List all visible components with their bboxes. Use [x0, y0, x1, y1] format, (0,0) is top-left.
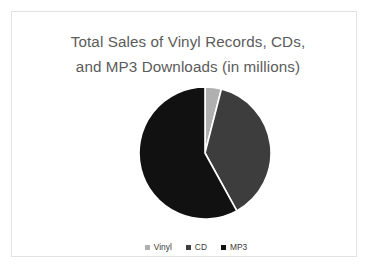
legend-item-mp3[interactable]: MP3: [221, 242, 247, 252]
legend-label-mp3: MP3: [230, 242, 247, 252]
legend-swatch-mp3: [221, 245, 226, 250]
plot-area: [23, 84, 369, 234]
chart-title-line-2: and MP3 Downloads (in millions): [38, 54, 338, 79]
pie-chart-svg: [138, 86, 272, 220]
pie-chart: [138, 86, 272, 220]
legend-swatch-vinyl: [145, 245, 150, 250]
chart-frame: Total Sales of Vinyl Records, CDs, and M…: [11, 11, 357, 257]
legend-label-cd: CD: [195, 242, 207, 252]
pie-slices: [139, 87, 271, 219]
legend-swatch-cd: [186, 245, 191, 250]
legend-label-vinyl: Vinyl: [154, 242, 172, 252]
legend-item-cd[interactable]: CD: [186, 242, 207, 252]
chart-title-line-1: Total Sales of Vinyl Records, CDs,: [38, 29, 338, 54]
chart-title: Total Sales of Vinyl Records, CDs, and M…: [38, 29, 338, 79]
chart-legend: Vinyl CD MP3: [23, 242, 369, 252]
legend-item-vinyl[interactable]: Vinyl: [145, 242, 172, 252]
slide-canvas: Total Sales of Vinyl Records, CDs, and M…: [0, 0, 372, 274]
